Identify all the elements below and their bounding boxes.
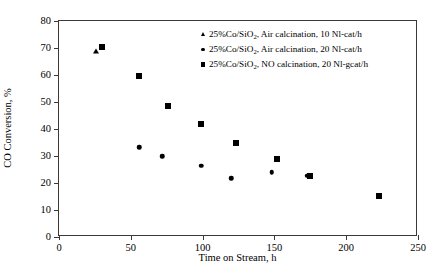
square-marker-icon [198, 62, 208, 67]
data-point-square [136, 73, 142, 79]
legend-item[interactable]: 25%Co/SiO2, NO calcination, 20 Nl-gcat/h [198, 57, 368, 72]
y-tick-mark [54, 210, 59, 211]
circle-marker-icon [198, 48, 208, 51]
legend-label: 25%Co/SiO2, NO calcination, 20 Nl-gcat/h [208, 57, 368, 72]
figure: 01020304050607080 050100150200250 Time o… [0, 0, 444, 280]
x-tick-label: 200 [338, 243, 354, 254]
y-tick-label: 10 [41, 205, 52, 216]
y-tick-label: 60 [41, 70, 52, 81]
data-point-square [233, 140, 239, 146]
y-tick-label: 20 [41, 178, 52, 189]
data-point-square [99, 44, 105, 50]
x-tick-mark [346, 235, 347, 240]
y-tick-mark [54, 183, 59, 184]
legend: 25%Co/SiO2, Air calcination, 10 Nl-cat/h… [198, 27, 368, 72]
y-tick-mark [54, 129, 59, 130]
data-point-square [165, 103, 171, 109]
y-tick-mark [54, 48, 59, 49]
data-point-circle [229, 176, 234, 181]
y-tick-label: 50 [41, 97, 52, 108]
data-point-circle [269, 170, 274, 175]
data-point-circle [137, 145, 142, 150]
legend-item[interactable]: 25%Co/SiO2, Air calcination, 20 Nl-cat/h [198, 42, 368, 57]
y-tick-label: 0 [46, 232, 51, 243]
x-tick-mark [274, 235, 275, 240]
data-point-square [274, 156, 280, 162]
y-axis-label: CO Conversion, % [3, 88, 14, 168]
y-tick-mark [54, 75, 59, 76]
x-tick-mark [418, 235, 419, 240]
x-tick-label: 0 [56, 243, 61, 254]
data-point-circle [199, 163, 204, 168]
x-tick-label: 250 [410, 243, 426, 254]
y-tick-label: 40 [41, 124, 52, 135]
x-tick-mark [59, 235, 60, 240]
triangle-marker-icon [198, 32, 208, 36]
y-tick-label: 80 [41, 16, 52, 27]
x-axis-label: Time on Stream, h [58, 253, 417, 264]
y-tick-label: 70 [41, 43, 52, 54]
data-point-square [198, 121, 204, 127]
y-tick-mark [54, 21, 59, 22]
x-tick-mark [131, 235, 132, 240]
legend-label: 25%Co/SiO2, Air calcination, 10 Nl-cat/h [208, 27, 362, 42]
x-tick-label: 50 [126, 243, 137, 254]
y-tick-mark [54, 102, 59, 103]
data-point-square [307, 173, 313, 179]
y-tick-label: 30 [41, 151, 52, 162]
x-tick-mark [203, 235, 204, 240]
y-tick-mark [54, 156, 59, 157]
legend-item[interactable]: 25%Co/SiO2, Air calcination, 10 Nl-cat/h [198, 27, 368, 42]
legend-label: 25%Co/SiO2, Air calcination, 20 Nl-cat/h [208, 42, 362, 57]
data-point-circle [160, 154, 165, 159]
data-point-square [376, 193, 382, 199]
